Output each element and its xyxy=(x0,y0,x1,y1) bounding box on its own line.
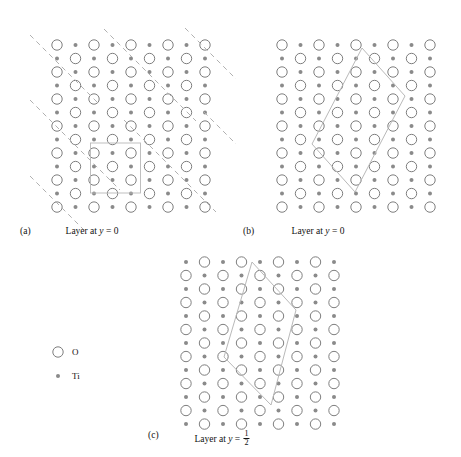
titanium-atom xyxy=(203,382,207,386)
titanium-atom xyxy=(74,70,78,74)
titanium-atom xyxy=(280,57,284,61)
titanium-atom xyxy=(314,355,318,359)
titanium-atom xyxy=(299,70,303,74)
titanium-atom xyxy=(295,260,299,264)
titanium-atom xyxy=(317,111,321,115)
titanium-atom xyxy=(148,178,152,182)
titanium-atom xyxy=(332,260,336,264)
titanium-atom xyxy=(410,43,414,47)
titanium-atom xyxy=(295,422,299,426)
titanium-atom xyxy=(221,260,225,264)
panel-a-caption-eq: = 0 xyxy=(104,226,119,236)
titanium-atom xyxy=(336,178,340,182)
titanium-atom xyxy=(428,57,432,61)
titanium-atom xyxy=(203,355,207,359)
titanium-atom xyxy=(410,70,414,74)
titanium-atom xyxy=(221,314,225,318)
panel-c-caption-prefix: Layer at xyxy=(194,434,228,444)
panel-b-caption-eq: = 0 xyxy=(330,226,345,236)
titanium-atom xyxy=(336,43,340,47)
titanium-atom xyxy=(258,314,262,318)
panel-a-caption: Layer at y = 0 xyxy=(66,226,119,236)
titanium-atom xyxy=(92,57,96,61)
titanium-atom xyxy=(295,341,299,345)
titanium-atom xyxy=(280,192,284,196)
titanium-atom xyxy=(55,138,59,142)
titanium-atom xyxy=(129,138,133,142)
titanium-atom xyxy=(185,70,189,74)
titanium-atom xyxy=(111,97,115,101)
titanium-atom xyxy=(92,84,96,88)
titanium-atom xyxy=(55,57,59,61)
titanium-atom xyxy=(336,70,340,74)
titanium-atom xyxy=(129,165,133,169)
panel-c-caption-fraction: 12 xyxy=(244,430,250,447)
panel-b-letter: (b) xyxy=(243,226,254,236)
titanium-atom xyxy=(258,422,262,426)
titanium-atom xyxy=(373,97,377,101)
panel-c-caption: Layer at y = 12 xyxy=(194,430,249,447)
titanium-atom xyxy=(166,138,170,142)
titanium-atom xyxy=(295,314,299,318)
titanium-atom xyxy=(317,84,321,88)
titanium-atom xyxy=(166,111,170,115)
titanium-atom xyxy=(373,178,377,182)
panel-a-caption-prefix: Layer at xyxy=(66,226,100,236)
panel-c-letter: (c) xyxy=(148,430,159,440)
titanium-atom xyxy=(203,192,207,196)
titanium-atom xyxy=(258,260,262,264)
titanium-atom xyxy=(314,328,318,332)
titanium-atom xyxy=(354,138,358,142)
titanium-atom xyxy=(258,368,262,372)
titanium-atom xyxy=(410,97,414,101)
titanium-atom xyxy=(184,422,188,426)
titanium-atom xyxy=(332,395,336,399)
titanium-atom xyxy=(74,178,78,182)
titanium-atom xyxy=(55,192,59,196)
titanium-atom xyxy=(280,111,284,115)
panel-a-letter: (a) xyxy=(20,226,31,236)
titanium-atom xyxy=(184,395,188,399)
titanium-atom xyxy=(299,124,303,128)
titanium-atom xyxy=(336,124,340,128)
titanium-atom xyxy=(295,368,299,372)
titanium-atom xyxy=(428,138,432,142)
titanium-atom xyxy=(129,84,133,88)
titanium-atom xyxy=(74,43,78,47)
titanium-atom xyxy=(332,341,336,345)
titanium-atom xyxy=(332,368,336,372)
titanium-atom xyxy=(391,192,395,196)
titanium-atom xyxy=(332,287,336,291)
titanium-atom xyxy=(74,124,78,128)
titanium-atom xyxy=(277,355,281,359)
titanium-atom xyxy=(428,192,432,196)
titanium-atom xyxy=(203,165,207,169)
titanium-atom xyxy=(184,341,188,345)
titanium-atom xyxy=(332,314,336,318)
titanium-atom xyxy=(221,341,225,345)
titanium-atom xyxy=(92,138,96,142)
titanium-atom xyxy=(221,422,225,426)
titanium-atom xyxy=(314,382,318,386)
titanium-atom xyxy=(203,409,207,413)
titanium-atom xyxy=(277,328,281,332)
titanium-atom xyxy=(148,43,152,47)
titanium-atom xyxy=(203,328,207,332)
titanium-atom xyxy=(240,382,244,386)
legend-label-ti: Ti xyxy=(72,371,80,381)
titanium-atom xyxy=(299,97,303,101)
titanium-atom xyxy=(221,287,225,291)
titanium-atom xyxy=(185,205,189,209)
titanium-atom xyxy=(148,205,152,209)
titanium-atom xyxy=(391,111,395,115)
titanium-atom xyxy=(203,138,207,142)
titanium-atom xyxy=(74,97,78,101)
panel-b-caption: Layer at y = 0 xyxy=(292,226,345,236)
titanium-atom xyxy=(185,124,189,128)
titanium-atom xyxy=(203,274,207,278)
titanium-atom xyxy=(373,205,377,209)
titanium-atom xyxy=(280,165,284,169)
titanium-atom xyxy=(166,57,170,61)
titanium-atom xyxy=(185,43,189,47)
titanium-atom xyxy=(111,124,115,128)
